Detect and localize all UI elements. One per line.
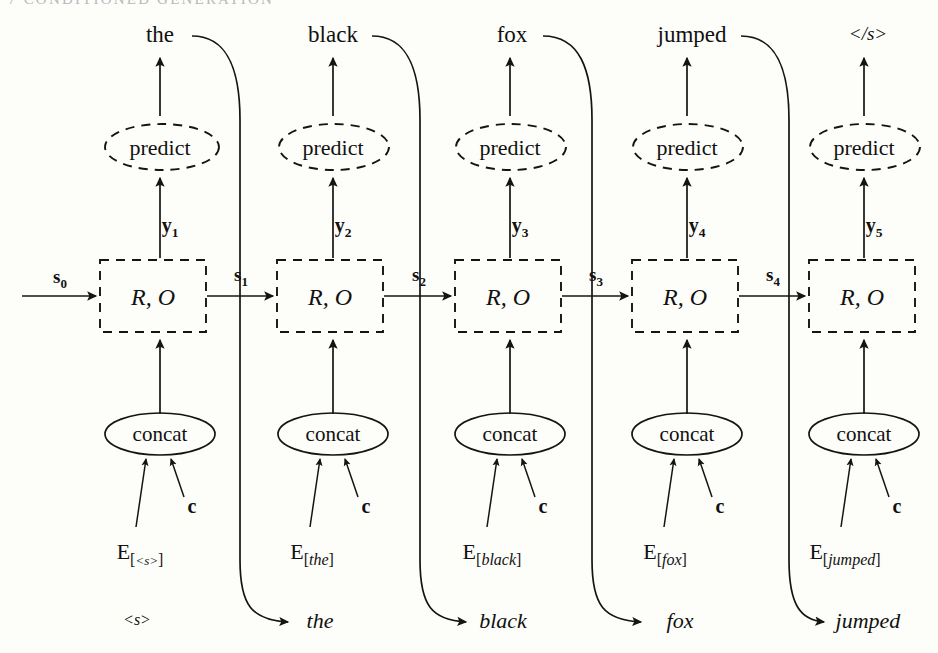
timestep-column-4: </s> predict y5 R, O concat c E[jumped] … <box>809 23 920 633</box>
predict-label-4: predict <box>833 135 894 160</box>
rnn-unrolled-diagram: s0 the predict y1 R, O concat c E[<s>] <… <box>0 0 938 653</box>
feedback-curve-1 <box>372 36 466 622</box>
timestep-column-3: jumped predict y4 R, O concat c E[fox] f… <box>632 22 743 633</box>
concat-label-1: concat <box>306 422 361 446</box>
embedding-label-3: E[fox] <box>643 539 687 569</box>
cell-label-3: R, O <box>662 284 707 310</box>
input-token-4: jumped <box>833 608 902 633</box>
cell-label-2: R, O <box>485 284 530 310</box>
y-label-3: y4 <box>689 214 706 240</box>
output-word-0: the <box>146 22 174 47</box>
state-label-4: s4 <box>766 264 780 289</box>
y-label-4: y5 <box>866 214 883 240</box>
concat-label-0: concat <box>133 422 188 446</box>
embedding-label-2: E[black] <box>463 539 522 568</box>
embedding-label-4: E[jumped] <box>809 539 880 569</box>
predict-label-0: predict <box>129 135 190 160</box>
state-label-2: s2 <box>412 264 426 289</box>
context-label-4: c <box>893 495 902 517</box>
timestep-column-0: the predict y1 R, O concat c E[<s>] <s> <box>100 22 219 628</box>
feedback-curve-3 <box>741 36 824 622</box>
input-token-0: <s> <box>123 611 151 628</box>
state-arrow-1-2: s2 <box>384 264 451 296</box>
state-label-1: s1 <box>234 264 248 289</box>
context-label-3: c <box>716 495 725 517</box>
y-label-2: y3 <box>512 214 529 240</box>
input-token-2: black <box>479 608 528 633</box>
output-word-3: jumped <box>657 22 727 47</box>
timestep-column-1: black predict y2 R, O concat c E[the] th… <box>277 22 389 633</box>
concat-label-2: concat <box>483 422 538 446</box>
figure-page: 7 CONDITIONED GENERATION s0 the predict … <box>0 0 938 653</box>
concat-label-3: concat <box>660 422 715 446</box>
initial-state-arrow-group: s0 <box>22 266 96 296</box>
cell-label-1: R, O <box>307 284 352 310</box>
predict-label-2: predict <box>479 135 540 160</box>
y-label-0: y1 <box>162 214 179 240</box>
y-label-1: y2 <box>335 214 352 240</box>
context-label-2: c <box>539 495 548 517</box>
output-word-4: </s> <box>849 23 887 44</box>
initial-state-label: s0 <box>53 266 67 291</box>
state-arrow-3-4: s4 <box>739 264 805 296</box>
embedding-label-0: E[<s>] <box>117 539 164 568</box>
timestep-column-2: fox predict y3 R, O concat c E[black] bl… <box>455 22 566 633</box>
output-word-1: black <box>308 22 358 47</box>
predict-label-1: predict <box>302 135 363 160</box>
output-word-2: fox <box>497 22 528 47</box>
cell-label-4: R, O <box>839 284 884 310</box>
context-label-0: c <box>188 495 197 517</box>
input-token-1: the <box>307 608 334 633</box>
feedback-curve-0 <box>192 36 288 622</box>
cell-label-0: R, O <box>130 284 175 310</box>
embedding-label-1: E[the] <box>290 539 334 568</box>
state-arrow-2-3: s3 <box>562 264 628 296</box>
context-label-1: c <box>362 495 371 517</box>
input-token-3: fox <box>667 608 694 633</box>
feedback-curve-2 <box>543 36 641 622</box>
predict-label-3: predict <box>656 135 717 160</box>
concat-label-4: concat <box>837 422 892 446</box>
